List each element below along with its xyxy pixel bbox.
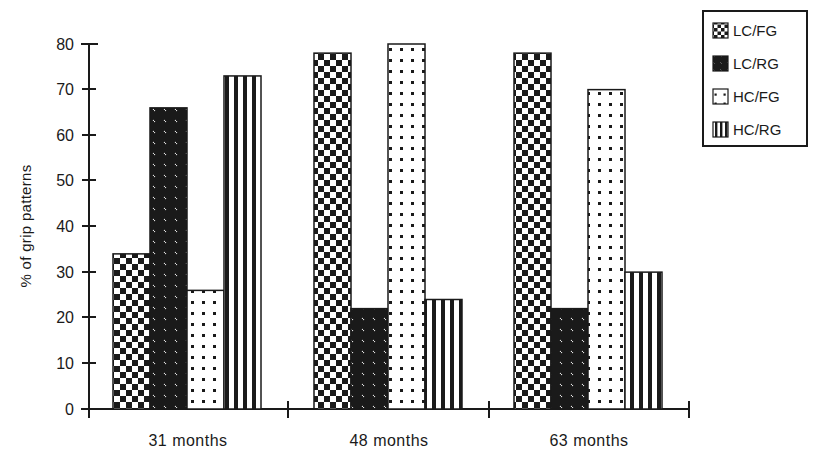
diagonal-hatch-swatch-icon [713,56,728,71]
y-tick-label-40: 40 [56,218,74,235]
y-axis-title: % of grip patterns [17,165,34,288]
legend-item-hcrg[interactable]: HC/RG [713,121,781,138]
bar-chart: 80 70 60 50 40 30 20 10 0 % of grip patt… [0,0,819,473]
bar-31-months-hcfg [187,290,224,409]
x-category-label-0: 31 months [148,432,227,449]
y-tick-label-30: 30 [56,264,74,281]
bar-48-months-lcfg [314,53,351,409]
y-tick-label-20: 20 [56,309,74,326]
bar-31-months-lcfg [113,254,150,409]
legend-item-hcfg[interactable]: HC/FG [713,88,780,105]
y-tick-label-60: 60 [56,127,74,144]
dots-swatch-icon [713,89,728,104]
y-tick-label-10: 10 [56,355,74,372]
chart-svg: 80 70 60 50 40 30 20 10 0 % of grip patt… [0,0,819,473]
bar-63-months-hcfg [588,90,625,409]
legend-label-hcfg: HC/FG [733,88,780,105]
x-category-label-1: 48 months [349,432,428,449]
bar-48-months-hcrg [425,300,462,410]
bar-63-months-hcrg [625,272,662,409]
legend-item-lcfg[interactable]: LC/FG [713,22,777,39]
y-tick-label-0: 0 [65,401,74,418]
bar-63-months-lcfg [514,53,551,409]
legend-label-lcrg: LC/RG [733,55,779,72]
y-tick-label-70: 70 [56,81,74,98]
y-tick-label-80: 80 [56,36,74,53]
bar-31-months-hcrg [224,76,261,409]
bar-63-months-lcrg [551,309,588,409]
checkerboard-swatch-icon [713,23,728,38]
bar-48-months-lcrg [351,309,388,409]
legend-label-lcfg: LC/FG [733,22,777,39]
x-category-label-2: 63 months [549,432,628,449]
vertical-stripes-swatch-icon [713,122,728,137]
bar-31-months-lcrg [150,108,187,409]
legend-item-lcrg[interactable]: LC/RG [713,55,779,72]
y-tick-label-50: 50 [56,172,74,189]
legend-label-hcrg: HC/RG [733,121,781,138]
bar-48-months-hcfg [388,44,425,409]
legend: LC/FG LC/RG HC/FG HC/RG [703,11,807,146]
